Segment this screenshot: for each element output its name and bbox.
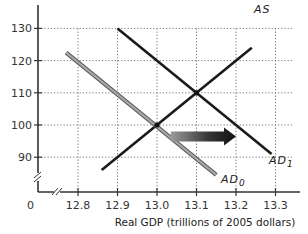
- x-tick-label: 13.2: [224, 199, 249, 212]
- equilibrium-point: [154, 122, 159, 127]
- grid: [38, 28, 292, 192]
- y-tick-label: 120: [11, 55, 32, 68]
- as-label: AS: [253, 3, 271, 16]
- y-tick-label: 110: [11, 87, 32, 100]
- shift-arrow: [171, 127, 236, 145]
- chart: 9010011012013012.812.913.013.113.213.3 R…: [0, 0, 308, 234]
- y-tick-label: 100: [11, 119, 32, 132]
- x-tick-label: 12.9: [105, 199, 130, 212]
- x-tick-label: 12.8: [66, 199, 91, 212]
- x-tick-label: 13.1: [184, 199, 209, 212]
- ad0-label: AD0: [220, 173, 246, 188]
- ad0-label-subscript: 0: [239, 178, 246, 188]
- origin-label: 0: [27, 199, 34, 212]
- as-curve: [102, 48, 252, 170]
- ad1-label-subscript: 1: [287, 159, 294, 169]
- x-tick-label: 13.3: [263, 199, 288, 212]
- equilibrium-point: [194, 90, 199, 95]
- ad1-label: AD1: [268, 154, 294, 169]
- ad0-curve: [66, 53, 216, 175]
- x-axis-title: Real GDP (trillions of 2005 dollars): [115, 216, 296, 228]
- axes: 9010011012013012.812.913.013.113.213.3: [11, 5, 300, 212]
- annotations: [171, 127, 236, 145]
- y-tick-label: 130: [11, 22, 32, 35]
- labels: Real GDP (trillions of 2005 dollars) 0 A…: [27, 3, 295, 228]
- series-group: [66, 28, 271, 175]
- y-tick-label: 90: [18, 151, 32, 164]
- x-tick-label: 13.0: [145, 199, 170, 212]
